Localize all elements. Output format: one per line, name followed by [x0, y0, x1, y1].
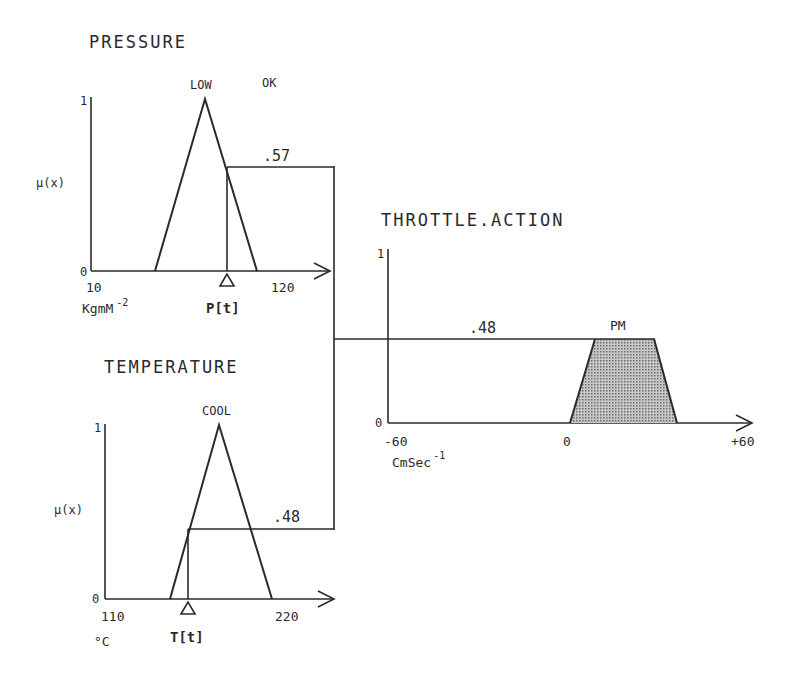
- temperature-chart: TEMPERATURE COOL 1 0 μ(x) .48 110 220 °C…: [54, 357, 334, 649]
- unit-label: CmSec-1: [392, 450, 445, 470]
- y-tick-1: 1: [377, 247, 384, 261]
- membership-value: .48: [273, 508, 300, 526]
- y-axis-label: μ(x): [36, 176, 65, 190]
- input-label: P[t]: [206, 300, 240, 316]
- set-label-cool: COOL: [202, 404, 231, 418]
- unit-label: °C: [94, 634, 110, 649]
- x-min-tick: 10: [86, 280, 102, 295]
- y-tick-0: 0: [92, 592, 99, 606]
- membership-triangle-low: [155, 99, 257, 271]
- fuzzy-inference-diagram: PRESSURE LOW OK 1 0 μ(x) .57 10 120 KgmM…: [0, 0, 798, 685]
- y-tick-0: 0: [375, 416, 382, 430]
- set-label-ok: OK: [262, 76, 277, 90]
- set-label-pm: PM: [610, 318, 626, 333]
- clip-value: .48: [469, 319, 496, 337]
- throttle-action-chart: THROTTLE.ACTION 1 0 .48 PM -60 0 +60 CmS…: [334, 210, 754, 470]
- pressure-chart: PRESSURE LOW OK 1 0 μ(x) .57 10 120 KgmM…: [36, 32, 334, 316]
- set-label-low: LOW: [190, 78, 212, 92]
- y-tick-0: 0: [80, 265, 87, 279]
- x-mid-tick: 0: [563, 434, 571, 449]
- pressure-title: PRESSURE: [89, 32, 187, 52]
- x-max-tick: 220: [275, 609, 298, 624]
- unit-label: KgmM-2: [82, 297, 128, 316]
- input-label: T[t]: [170, 629, 204, 645]
- input-marker-triangle-icon: [220, 274, 234, 286]
- y-tick-1: 1: [94, 421, 101, 435]
- x-max-tick: +60: [731, 434, 754, 449]
- y-tick-1: 1: [80, 94, 87, 108]
- x-max-tick: 120: [271, 280, 294, 295]
- x-min-tick: -60: [384, 434, 407, 449]
- y-axis-label: μ(x): [54, 503, 83, 517]
- membership-value: .57: [263, 147, 290, 165]
- membership-triangle-cool: [170, 425, 272, 599]
- x-min-tick: 110: [101, 609, 124, 624]
- input-marker-triangle-icon: [181, 602, 195, 614]
- temperature-title: TEMPERATURE: [104, 357, 239, 377]
- pm-clipped-area: [570, 339, 677, 423]
- throttle-title: THROTTLE.ACTION: [381, 210, 565, 230]
